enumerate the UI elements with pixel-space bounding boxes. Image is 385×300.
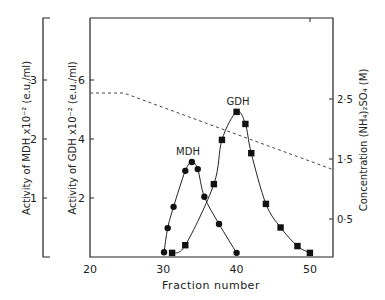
gdh-annotation: GDH (227, 96, 250, 107)
gdh-point (169, 250, 175, 256)
gdh-point (263, 201, 269, 207)
mdh-axis-label: Activity of MDH x10⁻² (e.u./ml) (21, 61, 32, 215)
mdh-point (233, 250, 239, 256)
gdh-point (277, 224, 283, 230)
mdh-point (216, 221, 222, 227)
chart: 1232460·51·52·520304050Fraction numberAc… (0, 0, 385, 300)
x-tick-label: 20 (83, 263, 97, 276)
gradient-line (90, 93, 332, 169)
gdh-point (182, 242, 188, 248)
x-tick-label: 50 (303, 263, 317, 276)
mdh-point (195, 166, 201, 172)
gdh-point (242, 121, 248, 127)
gdh-curve (172, 111, 310, 253)
mdh-annotation: MDH (176, 146, 200, 157)
gdh-point (294, 243, 300, 249)
mdh-axis (43, 18, 50, 257)
plot-frame (90, 18, 333, 257)
conc-tick-label: 0·5 (337, 214, 353, 225)
mdh-point (161, 249, 167, 255)
gdh-point (219, 137, 225, 143)
x-tick-label: 40 (230, 263, 244, 276)
x-tick-label: 30 (156, 263, 170, 276)
gdh-point (307, 250, 313, 256)
x-axis-label: Fraction number (162, 279, 260, 292)
gdh-axis-label: Activity of GDH x10⁻² (e.u./ml) (67, 61, 78, 214)
conc-tick-label: 1·5 (337, 154, 353, 165)
mdh-point (164, 225, 170, 231)
mdh-point (201, 194, 207, 200)
mdh-point (189, 159, 195, 165)
gdh-tick-label: 4 (78, 133, 85, 146)
mdh-point (182, 168, 188, 174)
mdh-point (170, 204, 176, 210)
conc-axis-label: Concentration (NH₄)₂SO₄ (M) (358, 69, 369, 212)
conc-tick-label: 2·5 (337, 94, 353, 105)
gdh-point (211, 181, 217, 187)
gdh-point (233, 109, 239, 115)
gdh-tick-label: 6 (78, 74, 85, 87)
gdh-point (248, 150, 254, 156)
gdh-tick-label: 2 (78, 192, 85, 205)
